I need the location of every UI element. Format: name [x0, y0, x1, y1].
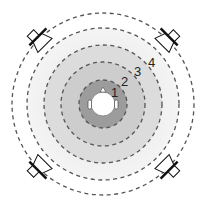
zone-label-1: 1	[111, 85, 118, 100]
speaker-rear-left-icon	[24, 154, 54, 184]
speaker-front-left-icon	[24, 23, 54, 53]
zone-label-2: 2	[121, 74, 128, 89]
speaker-rear-right-icon	[153, 154, 183, 184]
listening-zone-diagram: 1 2 3 4	[0, 0, 207, 208]
zone-label-4: 4	[148, 55, 155, 70]
speaker-front-right-icon	[153, 23, 183, 53]
zone-label-3: 3	[134, 64, 141, 79]
